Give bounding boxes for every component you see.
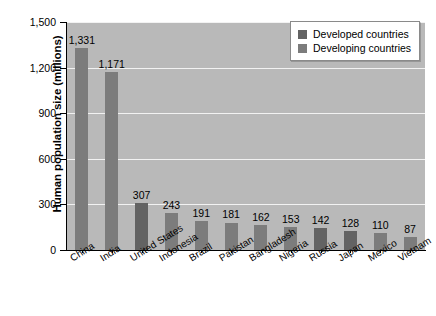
y-tick-label: 900 xyxy=(0,107,56,119)
bar-chart: Human population size (millions) 0300600… xyxy=(0,0,436,316)
y-axis-line xyxy=(66,22,67,251)
legend-swatch-icon xyxy=(298,30,307,39)
y-tick-label: 600 xyxy=(0,153,56,165)
bar-value-label: 1,171 xyxy=(90,58,134,70)
legend-item: Developed countries xyxy=(298,27,411,41)
y-tick-mark xyxy=(60,68,67,69)
legend-label: Developing countries xyxy=(313,42,411,54)
gridline xyxy=(67,113,425,114)
legend-item: Developing countries xyxy=(298,41,411,55)
legend-label: Developed countries xyxy=(313,28,409,40)
y-tick-mark xyxy=(60,250,67,251)
bar-value-label: 1,331 xyxy=(60,34,104,46)
bar-china xyxy=(75,48,88,250)
y-tick-label: 1,500 xyxy=(0,16,56,28)
y-tick-label: 300 xyxy=(0,198,56,210)
gridline xyxy=(67,204,425,205)
bar-india xyxy=(105,72,118,250)
y-tick-mark xyxy=(60,113,67,114)
bar-value-label: 87 xyxy=(388,223,432,235)
y-tick-label: 0 xyxy=(0,244,56,256)
y-tick-label: 1,200 xyxy=(0,62,56,74)
y-tick-mark xyxy=(60,22,67,23)
y-tick-mark xyxy=(60,204,67,205)
legend-swatch-icon xyxy=(298,44,307,53)
chart-legend: Developed countriesDeveloping countries xyxy=(290,21,420,61)
y-tick-mark xyxy=(60,159,67,160)
gridline xyxy=(67,159,425,160)
